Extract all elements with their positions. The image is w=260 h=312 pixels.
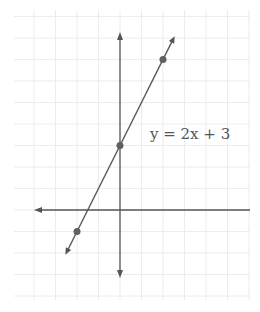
data-point xyxy=(117,142,124,149)
coordinate-plane: y = 2x + 3 xyxy=(0,0,260,312)
grid xyxy=(14,10,250,300)
y-axis-arrow-up-icon xyxy=(117,32,123,40)
data-point xyxy=(74,228,81,235)
equation-label: y = 2x + 3 xyxy=(149,125,230,143)
x-axis-arrow-left-icon xyxy=(34,207,42,213)
data-point xyxy=(160,56,167,63)
